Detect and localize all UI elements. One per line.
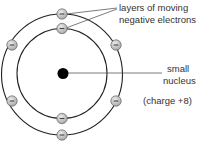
electron-icon [111, 40, 121, 50]
electron-pointer-line-2 [66, 9, 117, 28]
electron-icon [57, 9, 67, 19]
electron-icon [57, 113, 67, 123]
electron-icon [57, 23, 67, 33]
atom-diagram: layers of moving negative electrons smal… [0, 0, 205, 147]
electron-icon [111, 96, 121, 106]
electron-icon [57, 130, 67, 140]
electrons-label-line-1: layers of moving [119, 2, 188, 13]
electron-icon [7, 40, 17, 50]
nucleus-icon [58, 68, 69, 79]
electron-icon [7, 96, 17, 106]
electron-pointer-line-1 [66, 8, 117, 14]
nucleus-label-line-1: small [167, 63, 189, 74]
electrons-label-line-2: negative electrons [119, 14, 196, 25]
charge-label: (charge +8) [143, 95, 192, 106]
nucleus-label-line-2: nucleus [163, 75, 196, 86]
